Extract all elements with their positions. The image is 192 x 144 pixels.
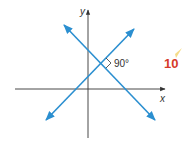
y-axis-label: y <box>79 6 86 17</box>
coordinate-plane-diagram: 90° y x 10 <box>0 0 192 144</box>
exercise-number-label: 10 <box>164 56 178 71</box>
x-axis-label: x <box>159 93 166 104</box>
angle-label: 90° <box>114 58 129 69</box>
rising-line <box>46 29 134 120</box>
right-angle-marker <box>106 58 111 68</box>
falling-line <box>64 25 155 120</box>
exercise-number: 10 <box>164 48 182 71</box>
